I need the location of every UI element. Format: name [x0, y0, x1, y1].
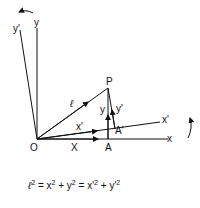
x-prime-vector-label: x' [76, 122, 83, 132]
y-axis-label: y [34, 18, 39, 28]
point-p-label: P [106, 77, 113, 87]
y-component-label: y [100, 105, 105, 115]
origin-label: O [30, 143, 38, 153]
y-prime-axis [20, 30, 37, 139]
length-equation: ℓ2 = x2 + y2 = x'2 + y'2 [28, 179, 120, 191]
rotation-arrow-right [188, 118, 191, 138]
y-prime-component-label: y' [116, 104, 123, 114]
ell-label: ℓ [70, 99, 73, 109]
y-prime-axis-label: y' [13, 24, 20, 34]
rotation-arrow-top [19, 11, 33, 13]
x-vector-label: X [71, 143, 78, 153]
x-axis-label: x [167, 134, 172, 144]
point-a-prime-label: A' [115, 126, 124, 136]
rotation-diagram: y' y P ℓ y y' x' x' A' x O X A ℓ2 = x2 +… [0, 0, 200, 208]
point-a-label: A [105, 143, 112, 153]
x-prime-axis-label: x' [162, 115, 169, 125]
